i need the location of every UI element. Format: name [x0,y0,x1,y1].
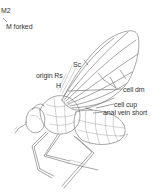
abdomen-hatch-1 [78,120,124,128]
leader-cell-cup [96,104,114,108]
proboscis [15,124,26,133]
abdomen-hatch-2 [78,130,124,136]
fly-wing-venation-diagram: M2 M forked Sc origin Rs H cell dm cell … [0,0,165,194]
label-m-forked: M forked [6,23,32,31]
head [14,104,45,133]
middle-leg-tarsus [68,163,98,170]
label-h: H [56,82,61,90]
middle-leg-inner [46,135,70,161]
thorax-suture-1 [46,104,70,107]
abdomen-segment-4 [113,116,118,141]
antenna-base [32,104,44,110]
label-cell-cup: cell cup [114,101,137,109]
thorax [40,96,80,134]
wing-outline [62,31,139,110]
front-leg-inner [34,133,54,176]
legs [32,132,98,188]
arista [14,126,18,130]
middle-leg [44,134,68,163]
thorax-line-b [64,98,66,132]
eye-contour [30,115,40,120]
label-origin-rs: origin Rs [36,72,63,80]
crossvein-rm [98,73,104,80]
thorax-line-a [54,98,58,132]
crossvein-m [120,70,126,79]
leader-m-forked [3,18,7,22]
abdomen-segment-1 [85,110,90,144]
thorax-suture-3 [50,122,74,125]
abdomen-segment-2 [95,110,100,145]
leader-anal-vein [93,112,103,113]
label-cell-dm: cell dm [123,86,144,94]
hind-leg-spur [70,160,84,164]
label-m2: M2 [1,7,11,15]
thorax-suture-2 [46,114,76,117]
label-anal-vein-short: anal vein short [103,109,147,117]
label-sc: Sc [73,61,81,69]
head-outline [26,108,45,133]
